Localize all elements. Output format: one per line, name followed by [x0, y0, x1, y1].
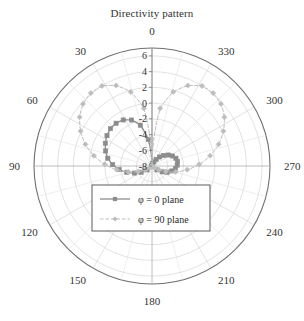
data-point-marker — [222, 115, 227, 120]
angle-tick-label-120: 120 — [21, 226, 38, 238]
data-point-marker — [185, 167, 190, 172]
data-point-marker — [99, 83, 104, 88]
radial-tick-label-4: 4 — [142, 66, 147, 77]
radial-tick-label-6: 6 — [142, 50, 147, 61]
data-point-marker — [114, 83, 119, 88]
data-point-marker — [170, 154, 174, 158]
data-point-marker — [158, 106, 163, 111]
data-point-marker — [185, 83, 190, 88]
radial-tick-label-2: 2 — [142, 82, 147, 93]
grid-spoke-minor — [121, 52, 152, 166]
data-point-marker — [80, 101, 85, 106]
data-point-marker — [216, 142, 221, 147]
polar-chart-figure: Directivity pattern 03060901201501802102… — [0, 0, 304, 321]
angle-tick-label-270: 270 — [284, 160, 301, 172]
angle-tick-label-180: 180 — [144, 295, 161, 307]
radial-tick-label-neg6: -6 — [139, 145, 147, 156]
data-point-marker — [111, 163, 115, 167]
angle-tick-label-150: 150 — [70, 274, 87, 286]
data-point-marker — [166, 153, 170, 157]
radial-tick-label-neg8: -8 — [139, 161, 147, 172]
angle-tick-label-240: 240 — [266, 226, 283, 238]
angle-tick-label-60: 60 — [27, 94, 39, 106]
data-point-marker — [162, 153, 166, 157]
data-point-marker — [106, 156, 110, 160]
data-point-marker — [108, 127, 112, 131]
angle-tick-label-90: 90 — [9, 160, 21, 172]
radial-tick-labels: 6420-2-4-6-8 — [139, 50, 152, 171]
data-point-marker — [218, 101, 223, 106]
grid-spoke-minor — [38, 135, 152, 166]
chart-legend: φ = 0 planeφ = 90 plane — [92, 185, 210, 231]
legend-marker-phi0 — [113, 197, 117, 201]
grid-spoke-minor — [152, 135, 266, 166]
legend-label-phi0: φ = 0 plane — [138, 194, 184, 205]
polar-plot-canvas: 0306090120150180210240270300330 6420-2-4… — [0, 0, 304, 321]
grid-spoke-minor — [152, 52, 183, 166]
angle-tick-label-210: 210 — [218, 274, 235, 286]
radial-tick-label-0: 0 — [142, 98, 147, 109]
angle-tick-label-0: 0 — [149, 25, 155, 37]
grid-spoke — [152, 64, 211, 166]
angle-tick-label-300: 300 — [266, 94, 283, 106]
angle-tick-label-30: 30 — [75, 45, 87, 57]
data-point-marker — [199, 83, 204, 88]
data-point-marker — [103, 141, 107, 145]
data-point-marker — [77, 115, 82, 120]
angle-tick-label-330: 330 — [218, 45, 235, 57]
grid-spoke — [50, 107, 152, 166]
data-point-marker — [114, 121, 118, 125]
radial-tick-label-neg4: -4 — [139, 129, 147, 140]
data-point-marker — [105, 134, 109, 138]
data-point-marker — [121, 118, 125, 122]
data-point-marker — [88, 90, 93, 95]
legend-label-phi90: φ = 90 plane — [138, 214, 189, 225]
data-point-marker — [104, 149, 108, 153]
data-point-marker — [83, 142, 88, 147]
radial-tick-label-neg2: -2 — [139, 113, 147, 124]
data-point-marker — [129, 118, 133, 122]
